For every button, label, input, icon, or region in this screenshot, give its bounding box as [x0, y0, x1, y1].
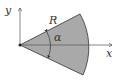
x-axis-label: x [106, 47, 113, 60]
sector-diagram: y x R α [0, 0, 120, 80]
y-axis-label: y [4, 4, 12, 17]
angle-label: α [54, 31, 62, 44]
radius-label: R [48, 14, 57, 27]
origin-point [19, 44, 22, 47]
